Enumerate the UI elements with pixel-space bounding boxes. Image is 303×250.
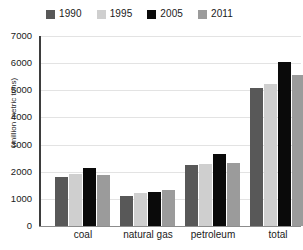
legend-item-1990[interactable]: 1990 xyxy=(46,9,82,19)
legend-label-2005: 2005 xyxy=(160,9,183,19)
y-tick-label-2000: 2000 xyxy=(0,167,32,176)
bar-coal-2011[interactable] xyxy=(97,175,110,226)
x-tick-label-natural-gas: natural gas xyxy=(120,229,176,241)
y-tick-label-5000: 5000 xyxy=(0,85,32,94)
bar-coal-1990[interactable] xyxy=(55,177,68,226)
x-tick-label-coal: coal xyxy=(55,229,111,241)
bar-petroleum-1995[interactable] xyxy=(199,164,212,226)
bar-natural-gas-1990[interactable] xyxy=(120,196,133,226)
legend-label-1990: 1990 xyxy=(59,9,82,19)
bar-group-coal xyxy=(55,36,111,226)
legend-swatch-2011 xyxy=(198,10,207,19)
y-axis-tick-labels: 01000200030004000500060007000 xyxy=(0,36,36,226)
bar-coal-1995[interactable] xyxy=(69,174,82,226)
gridline-0 xyxy=(39,226,301,227)
y-tick-label-6000: 6000 xyxy=(0,58,32,67)
bars-layer xyxy=(41,36,301,226)
bar-petroleum-1990[interactable] xyxy=(185,165,198,226)
y-tick-label-3000: 3000 xyxy=(0,140,32,149)
bar-total-2011[interactable] xyxy=(292,75,303,226)
bar-total-1990[interactable] xyxy=(250,88,263,226)
bar-natural-gas-2005[interactable] xyxy=(148,192,161,226)
bar-total-1995[interactable] xyxy=(264,84,277,227)
legend-label-1995: 1995 xyxy=(110,9,133,19)
bar-group-total xyxy=(250,36,303,226)
y-tick-label-4000: 4000 xyxy=(0,112,32,121)
y-tick-label-1000: 1000 xyxy=(0,194,32,203)
legend-item-1995[interactable]: 1995 xyxy=(97,9,133,19)
bar-total-2005[interactable] xyxy=(278,62,291,226)
x-axis-tick-labels: coalnatural gaspetroleumtotal xyxy=(39,229,301,245)
chart-legend: 1990 1995 2005 2011 xyxy=(46,6,296,22)
bar-petroleum-2011[interactable] xyxy=(227,163,240,226)
bar-petroleum-2005[interactable] xyxy=(213,154,226,226)
bar-coal-2005[interactable] xyxy=(83,168,96,226)
bar-natural-gas-1995[interactable] xyxy=(134,193,147,226)
legend-swatch-2005 xyxy=(147,10,156,19)
bar-natural-gas-2011[interactable] xyxy=(162,190,175,226)
x-tick-label-petroleum: petroleum xyxy=(185,229,241,241)
bar-group-natural-gas xyxy=(120,36,176,226)
legend-item-2011[interactable]: 2011 xyxy=(198,9,233,19)
legend-swatch-1990 xyxy=(46,10,55,19)
legend-label-2011: 2011 xyxy=(211,9,233,19)
bar-chart: 1990 1995 2005 2011 (million metric tons… xyxy=(0,0,303,250)
bar-group-petroleum xyxy=(185,36,241,226)
y-tick-label-7000: 7000 xyxy=(0,31,32,40)
legend-item-2005[interactable]: 2005 xyxy=(147,9,183,19)
y-tick-label-0: 0 xyxy=(0,221,32,230)
legend-swatch-1995 xyxy=(97,10,106,19)
x-tick-label-total: total xyxy=(250,229,303,241)
